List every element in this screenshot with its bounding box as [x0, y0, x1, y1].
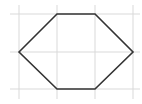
- hexagon-grid-diagram: [0, 0, 142, 104]
- grid-lines: [10, 5, 140, 99]
